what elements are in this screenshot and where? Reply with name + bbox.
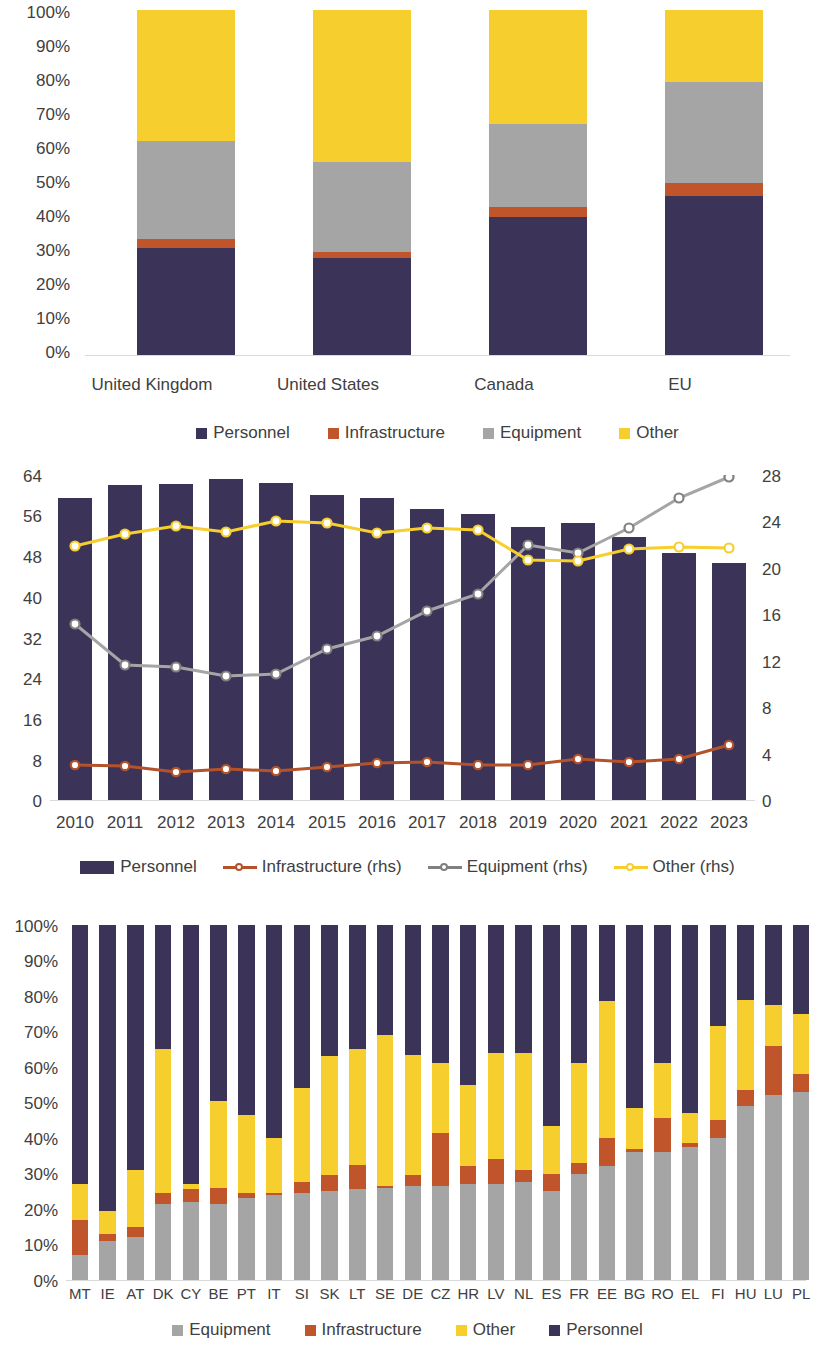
c3-ytick: 70% bbox=[0, 1023, 58, 1043]
c2-legend-label: Infrastructure (rhs) bbox=[262, 857, 402, 877]
c1-seg-equipment bbox=[137, 141, 235, 239]
c1-seg-personnel bbox=[137, 248, 235, 355]
c1-ytick: 100% bbox=[0, 3, 70, 23]
c2-legend-item-other[interactable]: Other (rhs) bbox=[614, 857, 735, 877]
c3-seg-equipment bbox=[405, 1186, 422, 1280]
c3-seg-personnel bbox=[710, 925, 727, 1026]
c3-seg-equipment bbox=[183, 1202, 200, 1280]
c3-seg-equipment bbox=[127, 1237, 144, 1280]
c3-plot-area bbox=[66, 925, 815, 1280]
personnel-swatch-icon bbox=[80, 861, 114, 874]
c3-seg-personnel bbox=[682, 925, 699, 1113]
c1-seg-personnel bbox=[489, 217, 587, 355]
c3-legend-label: Equipment bbox=[189, 1320, 270, 1340]
c3-seg-other bbox=[654, 1063, 671, 1118]
c2-xtick-2018: 2018 bbox=[453, 813, 503, 833]
c2-xtick-2014: 2014 bbox=[251, 813, 301, 833]
c1-legend-item-infrastructure[interactable]: Infrastructure bbox=[328, 423, 445, 443]
c2-xtick-2020: 2020 bbox=[553, 813, 603, 833]
c3-seg-equipment bbox=[349, 1189, 366, 1280]
c3-seg-infrastructure bbox=[737, 1090, 754, 1106]
c3-seg-personnel bbox=[571, 925, 588, 1063]
c3-legend: Equipment Infrastructure Other Personnel bbox=[0, 1320, 815, 1340]
c3-ytick: 100% bbox=[0, 917, 58, 937]
c1-bar-eu bbox=[665, 10, 763, 355]
c1-legend-item-equipment[interactable]: Equipment bbox=[483, 423, 581, 443]
c3-legend-label: Other bbox=[473, 1320, 516, 1340]
c3-bar-cz bbox=[432, 925, 449, 1280]
c3-seg-personnel bbox=[543, 925, 560, 1126]
c3-bar-ie bbox=[99, 925, 116, 1280]
c3-bar-se bbox=[377, 925, 394, 1280]
c3-axis-baseline bbox=[66, 1280, 806, 1281]
c3-bar-fi bbox=[710, 925, 727, 1280]
c3-seg-other bbox=[710, 1026, 727, 1120]
personnel-swatch-icon bbox=[196, 428, 207, 439]
c3-seg-personnel bbox=[488, 925, 505, 1053]
other-swatch-icon bbox=[456, 1325, 467, 1336]
infrastructure-swatch-icon bbox=[328, 428, 339, 439]
c3-seg-infrastructure bbox=[210, 1188, 227, 1204]
c3-legend-item-personnel[interactable]: Personnel bbox=[549, 1320, 643, 1340]
c2-legend-item-infrastructure[interactable]: Infrastructure (rhs) bbox=[223, 857, 402, 877]
c3-seg-infrastructure bbox=[405, 1175, 422, 1186]
c2-legend-item-equipment[interactable]: Equipment (rhs) bbox=[428, 857, 588, 877]
c1-ytick: 30% bbox=[0, 241, 70, 261]
c2-ytick-left: 8 bbox=[0, 752, 42, 772]
c3-seg-infrastructure bbox=[155, 1193, 172, 1204]
personnel-swatch-icon bbox=[549, 1325, 560, 1336]
c3-bar-group bbox=[66, 925, 815, 1280]
c3-seg-other bbox=[793, 1014, 810, 1074]
c3-seg-other bbox=[238, 1115, 255, 1193]
c1-axis-baseline bbox=[85, 355, 790, 356]
c1-legend-item-personnel[interactable]: Personnel bbox=[196, 423, 290, 443]
c3-legend-item-equipment[interactable]: Equipment bbox=[172, 1320, 270, 1340]
c2-axis-baseline bbox=[50, 800, 755, 801]
c2-xtick-2011: 2011 bbox=[100, 813, 150, 833]
c1-xtick-eu: EU bbox=[615, 375, 745, 395]
c1-ytick: 0% bbox=[0, 343, 70, 363]
c1-seg-equipment bbox=[489, 124, 587, 207]
c2-ytick-right: 20 bbox=[762, 560, 808, 580]
c1-legend-label: Infrastructure bbox=[345, 423, 445, 443]
c3-seg-infrastructure bbox=[127, 1227, 144, 1238]
c2-legend: Personnel Infrastructure (rhs) Equipment… bbox=[0, 857, 815, 877]
c3-bar-cy bbox=[183, 925, 200, 1280]
c2-ytick-left: 40 bbox=[0, 589, 42, 609]
c1-ytick: 20% bbox=[0, 275, 70, 295]
c3-seg-personnel bbox=[238, 925, 255, 1115]
c3-seg-infrastructure bbox=[432, 1133, 449, 1186]
c3-legend-label: Infrastructure bbox=[322, 1320, 422, 1340]
c2-legend-item-personnel[interactable]: Personnel bbox=[80, 857, 197, 877]
c3-seg-personnel bbox=[321, 925, 338, 1056]
c3-seg-infrastructure bbox=[72, 1220, 89, 1256]
c3-seg-equipment bbox=[515, 1182, 532, 1280]
c1-seg-infrastructure bbox=[665, 183, 763, 197]
c3-ytick: 90% bbox=[0, 952, 58, 972]
c3-seg-equipment bbox=[765, 1095, 782, 1280]
c1-bar-united-states bbox=[313, 10, 411, 355]
c3-legend-item-other[interactable]: Other bbox=[456, 1320, 516, 1340]
c1-ytick: 10% bbox=[0, 309, 70, 329]
c3-legend-label: Personnel bbox=[566, 1320, 643, 1340]
other-line-marker-icon bbox=[614, 861, 648, 873]
c3-seg-infrastructure bbox=[294, 1182, 311, 1193]
c3-seg-other bbox=[682, 1113, 699, 1143]
c3-seg-personnel bbox=[765, 925, 782, 1005]
c3-seg-infrastructure bbox=[543, 1174, 560, 1192]
c1-seg-equipment bbox=[313, 162, 411, 252]
c2-ytick-left: 64 bbox=[0, 467, 42, 487]
c3-bar-hu bbox=[737, 925, 754, 1280]
c2-xtick-2017: 2017 bbox=[402, 813, 452, 833]
c3-seg-personnel bbox=[599, 925, 616, 1001]
c3-legend-item-infrastructure[interactable]: Infrastructure bbox=[305, 1320, 422, 1340]
c3-bar-hr bbox=[460, 925, 477, 1280]
c1-seg-other bbox=[489, 10, 587, 124]
c1-legend-item-other[interactable]: Other bbox=[619, 423, 679, 443]
c3-seg-other bbox=[210, 1101, 227, 1188]
c3-seg-other bbox=[349, 1049, 366, 1164]
c2-xtick-2021: 2021 bbox=[604, 813, 654, 833]
c3-ytick: 10% bbox=[0, 1236, 58, 1256]
c1-seg-equipment bbox=[665, 82, 763, 182]
c3-seg-personnel bbox=[349, 925, 366, 1049]
